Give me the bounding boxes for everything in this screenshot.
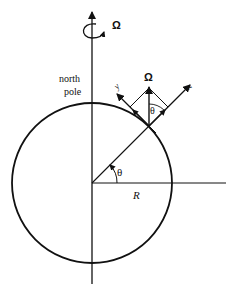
north-pole-label-line2: pole: [64, 87, 81, 97]
omega-label-top: Ω: [112, 20, 121, 31]
component-arrow-y: [133, 110, 149, 126]
theta-label-center: θ: [117, 167, 122, 178]
north-pole-label-line1: north: [59, 74, 80, 84]
theta-arc-center: [110, 165, 117, 183]
earth-diagram: [0, 0, 231, 292]
radius-label: R: [133, 190, 140, 201]
theta-label-local: θ: [150, 106, 155, 116]
rotation-curl-icon: [83, 24, 104, 38]
component-line-y: [130, 88, 149, 107]
omega-label-local: Ω: [144, 72, 153, 83]
